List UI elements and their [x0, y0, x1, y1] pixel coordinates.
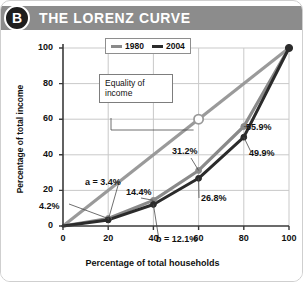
annotation-14-4: 14.4% [126, 187, 152, 197]
x-axis-title: Percentage of total households [1, 258, 303, 268]
y-tick-label: 80 [27, 78, 53, 88]
x-tick-label: 80 [232, 233, 256, 243]
legend-label-2004: 2004 [166, 41, 185, 51]
legend-item-2004: 2004 [152, 41, 185, 51]
panel-badge-letter: B [6, 7, 28, 29]
annotation-26-8: 26.8% [201, 193, 227, 203]
chart-legend: 1980 2004 [105, 38, 191, 54]
x-tick-label: 20 [96, 233, 120, 243]
equality-callout-line1: Equality of [105, 78, 167, 88]
y-tick-label: 100 [27, 42, 53, 52]
y-tick-label: 60 [27, 113, 53, 123]
y-axis-title: Percentage of total income [15, 74, 25, 204]
annotation-31-2: 31.2% [172, 146, 198, 156]
legend-swatch-2004 [152, 45, 163, 48]
page-title: The Lorenz Curve [39, 10, 191, 26]
legend-label-1980: 1980 [125, 41, 144, 51]
annotation-b: b = 12.1% [156, 234, 197, 244]
y-tick-label: 0 [27, 220, 53, 230]
annotation-4-2: 4.2% [39, 201, 60, 211]
chart-area: Percentage of total income Percentage of… [1, 30, 303, 282]
lorenz-curve-panel: B The Lorenz Curve Percentage of total i… [0, 0, 303, 282]
x-tick-label: 0 [51, 233, 75, 243]
panel-badge: B [4, 5, 30, 31]
x-tick-label: 100 [277, 233, 301, 243]
annotation-55-9: 55.9% [246, 122, 272, 132]
annotation-49-9: 49.9% [249, 148, 275, 158]
y-tick-label: 40 [27, 149, 53, 159]
legend-swatch-1980 [111, 45, 122, 48]
annotation-a: a = 3.4% [85, 177, 121, 187]
y-tick-label: 20 [27, 184, 53, 194]
legend-item-1980: 1980 [111, 41, 144, 51]
equality-callout-line2: income [105, 88, 167, 98]
equality-callout: Equality of income [99, 74, 173, 103]
equality-line [63, 48, 289, 226]
